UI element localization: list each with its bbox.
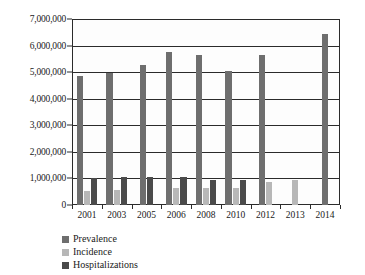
y-tick-label: 2,000,000 (30, 147, 66, 157)
x-tick-label: 2010 (226, 210, 245, 220)
bar-incidence-2010 (233, 188, 239, 205)
x-tick-mark (280, 205, 281, 209)
bar-prevalence-2008 (196, 55, 202, 205)
legend-item-hospitalizations[interactable]: Hospitalizations (62, 259, 138, 271)
x-tick-mark (340, 205, 341, 209)
y-tick-label: 4,000,000 (30, 94, 66, 104)
legend-item-incidence[interactable]: Incidence (62, 246, 138, 258)
x-tick-mark (251, 205, 252, 209)
y-tick-label: 0 (61, 200, 66, 210)
legend-swatch-icon (62, 236, 69, 243)
bar-prevalence-2012 (259, 55, 265, 205)
x-tick-label: 2013 (286, 210, 305, 220)
bar-incidence-2003 (114, 190, 120, 205)
legend-item-label: Hospitalizations (73, 259, 138, 271)
legend-item-prevalence[interactable]: Prevalence (62, 233, 138, 245)
bar-hospitalizations-2001 (91, 178, 97, 205)
legend-item-label: Incidence (73, 246, 112, 258)
legend-swatch-icon (62, 262, 69, 269)
bar-incidence-2008 (203, 188, 209, 205)
bar-incidence-2013 (292, 180, 298, 205)
x-tick-label: 2012 (256, 210, 275, 220)
bar-hospitalizations-2006 (180, 177, 186, 205)
x-tick-label: 2014 (316, 210, 335, 220)
y-tick-label: 1,000,000 (30, 173, 66, 183)
y-axis: 01,000,0002,000,0003,000,0004,000,0005,0… (0, 19, 72, 205)
bar-hospitalizations-2005 (147, 177, 153, 205)
y-tick-label: 7,000,000 (30, 14, 66, 24)
x-tick-mark (191, 205, 192, 209)
bar-hospitalizations-2010 (240, 180, 246, 206)
y-tick-label: 3,000,000 (30, 120, 66, 130)
y-tick-label: 5,000,000 (30, 67, 66, 77)
x-tick-mark (102, 205, 103, 209)
bar-incidence-2012 (266, 182, 272, 205)
bar-incidence-2001 (84, 191, 90, 205)
x-tick-mark (132, 205, 133, 209)
bar-chart: 01,000,0002,000,0003,000,0004,000,0005,0… (0, 0, 365, 275)
x-axis: 200120032005200620082010201220132014 (72, 205, 340, 231)
x-tick-label: 2006 (167, 210, 186, 220)
x-tick-label: 2003 (107, 210, 126, 220)
plot-area (72, 19, 340, 205)
x-tick-label: 2008 (197, 210, 216, 220)
legend-item-label: Prevalence (73, 233, 117, 245)
bar-prevalence-2001 (77, 76, 83, 205)
bar-hospitalizations-2003 (121, 177, 127, 205)
x-tick-label: 2001 (77, 210, 96, 220)
legend-swatch-icon (62, 249, 69, 256)
x-tick-mark (221, 205, 222, 209)
bar-prevalence-2010 (225, 71, 231, 205)
y-tick-label: 6,000,000 (30, 41, 66, 51)
x-tick-mark (161, 205, 162, 209)
bar-prevalence-2006 (166, 52, 172, 205)
x-tick-mark (72, 205, 73, 209)
bar-prevalence-2014 (322, 34, 328, 205)
x-tick-label: 2005 (137, 210, 156, 220)
x-tick-mark (310, 205, 311, 209)
bar-prevalence-2005 (140, 65, 146, 205)
bar-hospitalizations-2008 (210, 180, 216, 206)
chart-legend: PrevalenceIncidenceHospitalizations (62, 233, 138, 272)
gridline (72, 46, 340, 47)
bar-incidence-2006 (173, 188, 179, 205)
bar-prevalence-2003 (106, 73, 112, 205)
